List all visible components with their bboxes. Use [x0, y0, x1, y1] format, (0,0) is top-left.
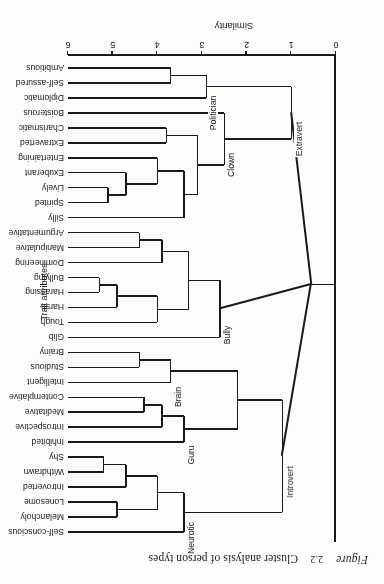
x-tick — [201, 51, 202, 55]
leaf-label: Extraverted — [20, 138, 64, 148]
x-tick — [67, 51, 68, 55]
x-tick-label: 4 — [146, 40, 168, 50]
leaf-label: Melancholy — [21, 512, 64, 522]
branch-horizontal — [68, 456, 104, 458]
rotated-figure-canvas: Figure 2.2 Cluster analysis of person ty… — [0, 0, 384, 584]
branch-horizontal — [68, 67, 171, 69]
branch-horizontal — [68, 142, 166, 144]
branch-horizontal — [68, 172, 126, 174]
branch-horizontal — [171, 370, 238, 372]
x-axis-title: Similarity — [215, 21, 254, 32]
axis-horizontal-line — [68, 54, 336, 56]
x-tick — [111, 51, 112, 55]
y-axis-title: Trait attributes — [39, 263, 49, 320]
branch-horizontal — [99, 284, 117, 286]
leaf-label: Exuberant — [25, 168, 64, 178]
branch-horizontal — [68, 352, 139, 354]
branch-horizontal — [184, 512, 282, 514]
branch-horizontal — [68, 292, 99, 294]
x-tick-label: 2 — [236, 40, 258, 50]
branch-horizontal — [162, 251, 189, 253]
leaf-label: Ambitious — [26, 63, 64, 73]
leaf-label: Charismatic — [19, 123, 64, 133]
branch-horizontal — [68, 187, 108, 189]
branch-horizontal — [166, 135, 197, 137]
x-tick-label: 5 — [102, 40, 124, 50]
leaf-label: Contemplative — [9, 392, 64, 402]
branch-horizontal — [68, 82, 171, 84]
cluster-label-introvert: Introvert — [285, 465, 295, 499]
x-tick — [290, 51, 291, 55]
x-tick-label: 3 — [191, 40, 213, 50]
branch-horizontal — [68, 307, 117, 309]
branch-horizontal — [68, 262, 162, 264]
leaf-label: Lonesome — [24, 497, 64, 507]
leaf-label: Introspective — [15, 422, 64, 432]
branch-horizontal — [68, 232, 139, 234]
leaf-label: Manipulative — [16, 243, 64, 253]
branch-horizontal — [108, 194, 126, 196]
dendrogram-plot: 0123456 Self-consciousMelancholyLonesome… — [68, 54, 336, 542]
leaf-label: Studious — [31, 362, 64, 372]
caption-figure-number: 2.2 — [310, 554, 323, 564]
branch-horizontal — [184, 194, 197, 196]
x-tick — [156, 51, 157, 55]
branch-horizontal — [68, 412, 144, 414]
branch-horizontal — [68, 397, 144, 399]
leaf-label: Shy — [49, 452, 64, 462]
branch-horizontal — [117, 509, 157, 511]
branch-horizontal — [126, 475, 157, 477]
cluster-label-politician: Politician — [208, 94, 218, 130]
cluster-label-bully: Bully — [222, 325, 232, 346]
branch-horizontal — [189, 280, 220, 282]
branch-horizontal — [157, 492, 184, 494]
cluster-label-extravert: Extravert — [294, 121, 304, 157]
branch-horizontal — [104, 464, 126, 466]
leaf-label: Self-assured — [16, 78, 64, 88]
branch-horizontal — [198, 164, 225, 166]
branch-horizontal — [68, 516, 117, 518]
branch-diagonal — [220, 284, 312, 310]
leaf-label: Self-conscious — [8, 527, 64, 537]
branch-horizontal — [68, 382, 171, 384]
x-tick-label: 6 — [57, 40, 79, 50]
branch-horizontal — [224, 138, 291, 140]
branch-horizontal — [68, 471, 104, 473]
branch-horizontal — [68, 277, 99, 279]
x-tick-label: 0 — [325, 40, 347, 50]
branch-horizontal — [68, 247, 139, 249]
leaf-label: Inhibited — [32, 437, 65, 447]
branch-horizontal — [68, 127, 166, 129]
branch-horizontal — [68, 367, 139, 369]
cluster-label-guru: Guru — [186, 445, 196, 466]
cluster-label-neurotic: Neurotic — [186, 521, 196, 555]
leaf-label: Argumentative — [9, 228, 64, 238]
leaf-label: Withdrawn — [23, 467, 64, 477]
x-tick — [245, 51, 246, 55]
branch-horizontal — [68, 157, 157, 159]
branch-horizontal — [68, 441, 184, 443]
branch-horizontal — [171, 75, 207, 77]
x-tick-label: 1 — [280, 40, 302, 50]
leaf-label: Boisterous — [23, 108, 64, 118]
branch-horizontal — [157, 170, 184, 172]
branch-diagonal — [282, 284, 313, 456]
leaf-label: Brainy — [40, 347, 64, 357]
branch-horizontal — [68, 217, 184, 219]
branch-horizontal — [68, 322, 157, 324]
figure-page: Figure 2.2 Cluster analysis of person ty… — [0, 0, 384, 584]
branch-horizontal — [68, 112, 224, 114]
branch-horizontal — [68, 426, 162, 428]
branch-horizontal — [68, 531, 184, 533]
caption-figure-word: Figure — [336, 554, 368, 566]
leaf-label: Diplomatic — [24, 93, 64, 103]
branch-horizontal — [162, 415, 184, 417]
branch-horizontal — [157, 309, 188, 311]
leaf-label: Meditative — [25, 407, 64, 417]
caption-title: Cluster analysis of person types — [149, 553, 298, 565]
branch-horizontal — [68, 501, 117, 503]
branch-horizontal — [68, 337, 220, 339]
cluster-label-brain: Brain — [173, 386, 183, 408]
branch-horizontal — [139, 359, 170, 361]
branch-horizontal — [206, 86, 291, 88]
